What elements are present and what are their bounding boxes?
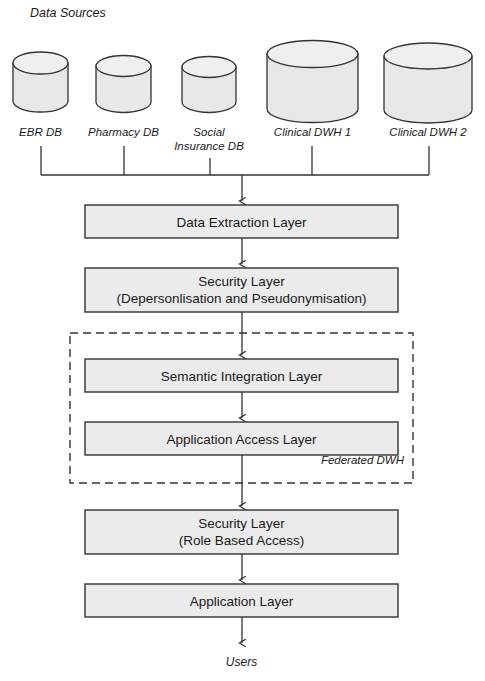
datasource-label-clinical-dwh-2: Clinical DWH 2 (389, 126, 467, 138)
datasource-label-social-insurance-db-line2: Insurance DB (174, 140, 244, 152)
datasource-cylinder-ebr-db (13, 52, 68, 112)
datasource-label-pharmacy-db: Pharmacy DB (88, 126, 159, 138)
federated-dwh-label: Federated DWH (321, 454, 405, 466)
diagram-canvas: Data Sources EBR DB Pharmacy DB Social I… (0, 0, 485, 681)
datasource-label-ebr-db: EBR DB (19, 126, 62, 138)
users-label: Users (226, 655, 257, 669)
datasource-cylinder-social-insurance-db (182, 57, 236, 113)
layer-label-data-extraction-layer: Data Extraction Layer (177, 215, 307, 230)
datasource-cylinder-clinical-dwh-1 (267, 41, 358, 123)
datasource-cylinder-clinical-dwh-2 (384, 43, 472, 123)
layer-label-semantic-integration-layer: Semantic Integration Layer (161, 369, 323, 384)
datasource-label-clinical-dwh-1: Clinical DWH 1 (274, 126, 351, 138)
datasource-label-social-insurance-db-line1: Social (193, 126, 225, 138)
datasource-cylinder-pharmacy-db (96, 56, 151, 113)
layer-label-security-layer-depersonalisation-line2: (Depersonlisation and Pseudonymisation) (117, 291, 367, 306)
layer-label-security-layer-role-based-access-line1: Security Layer (198, 516, 285, 531)
layer-label-application-layer: Application Layer (190, 594, 294, 609)
layer-label-security-layer-depersonalisation-line1: Security Layer (198, 274, 285, 289)
data-sources-title: Data Sources (30, 6, 106, 20)
layer-label-security-layer-role-based-access-line2: (Role Based Access) (179, 533, 304, 548)
layer-label-application-access-layer: Application Access Layer (166, 432, 317, 447)
architecture-diagram: Data Sources EBR DB Pharmacy DB Social I… (0, 0, 485, 681)
